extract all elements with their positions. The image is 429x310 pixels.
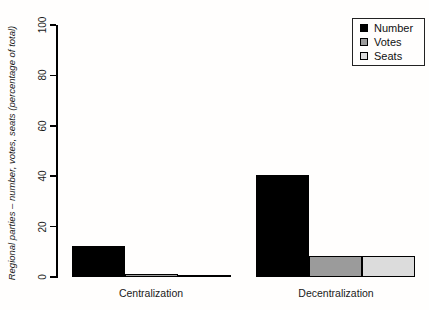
- legend-item-seats: Seats: [360, 50, 424, 62]
- x-category-label-centralization: Centralization: [119, 287, 183, 299]
- legend-label-number: Number: [374, 22, 413, 34]
- y-tick-60: [50, 125, 56, 127]
- legend-label-votes: Votes: [374, 36, 402, 48]
- y-tick-40: [50, 175, 56, 177]
- y-tick-label-60: 60: [37, 120, 48, 131]
- legend-swatch-votes-icon: [360, 38, 368, 46]
- x-category-label-decentralization: Decentralization: [298, 287, 373, 299]
- bar-centralization-votes: [125, 274, 178, 277]
- y-tick-label-0: 0: [37, 274, 48, 280]
- y-tick-label-20: 20: [37, 221, 48, 232]
- y-tick-0: [50, 276, 56, 278]
- y-tick-20: [50, 226, 56, 228]
- y-axis-line: [56, 25, 58, 278]
- y-tick-100: [50, 24, 56, 26]
- bar-decentralization-votes: [309, 256, 362, 277]
- legend-item-votes: Votes: [360, 36, 424, 48]
- legend-swatch-seats-icon: [360, 52, 368, 60]
- bar-centralization-number: [72, 246, 125, 278]
- legend-swatch-number-icon: [360, 24, 368, 32]
- bar-decentralization-number: [256, 175, 309, 277]
- bar-chart-figure: Regional parties – number, votes, seats …: [0, 0, 429, 310]
- legend-label-seats: Seats: [374, 50, 402, 62]
- y-tick-label-80: 80: [37, 70, 48, 81]
- y-tick-label-40: 40: [37, 171, 48, 182]
- bar-decentralization-seats: [362, 256, 415, 277]
- legend-item-number: Number: [360, 22, 424, 34]
- legend: Number Votes Seats: [352, 18, 425, 66]
- y-tick-label-100: 100: [37, 17, 48, 34]
- y-tick-80: [50, 75, 56, 77]
- y-axis-title: Regional parties – number, votes, seats …: [6, 26, 17, 281]
- bar-centralization-seats: [178, 275, 231, 277]
